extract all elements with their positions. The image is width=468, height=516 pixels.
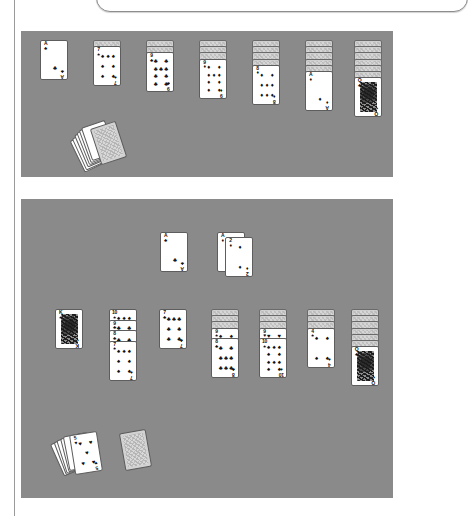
face-up-card[interactable]: 4♠4♠♠♠♠♠ [307,328,335,368]
card-pips: ♠♠♠♠♠♠♠♠♠♠ [266,343,282,373]
tableau-column-2[interactable]: 10♠10♠♠♠♠♠♠♠♠♠♠♠9♣9♣♣♣♣♣♣♣♣♣♣8♣8♣♣♣♣♣♣♣♣… [109,309,137,381]
face-up-card[interactable]: K♠K♠ [55,309,83,349]
tableau-column-7[interactable]: Q♣Q♣ [351,309,379,386]
waste-top-card[interactable]: 5♥5♥♥♥♥♥♥ [69,431,103,475]
court-card-art [360,82,377,112]
tableau-column-4[interactable]: 9♦9♦♦♦♦♦♦♦♦♦♦ [199,40,227,99]
court-card-art [61,314,78,344]
tableau-column-2[interactable]: 7♠7♠♠♠♠♠♠♠♠ [93,40,121,86]
face-up-card[interactable]: 8♦8♦♦♦♦♦♦♦♦♦ [252,65,280,105]
face-up-card[interactable]: 9♦9♦♦♦♦♦♦♦♦♦♦ [199,59,227,99]
card-pips: ♥♥♥♥♥ [77,437,97,469]
card-pips: ♦♦♦♦♦♦♦♦♦ [206,64,222,94]
tableau-column-3[interactable]: 7♣7♣♣♣♣♣♣♣♣ [159,309,187,349]
face-up-card[interactable]: 7♠7♠♠♠♠♠♠♠♠ [109,341,137,381]
card-pips: ♠♠♠♠♠♠♠ [116,346,132,376]
face-up-card[interactable]: 10♠10♠♠♠♠♠♠♠♠♠♠♠ [259,338,287,378]
face-up-card[interactable]: Q♣Q♣ [354,77,382,117]
card-pips: ♦♦ [232,242,248,272]
face-up-card[interactable]: 7♣7♣♣♣♣♣♣♣♣ [159,309,187,349]
foundation-card-clubs[interactable]: A♣A♣♣ [160,232,188,272]
tableau-column-5[interactable]: 9♥9♥♥♥♥♥♥♥♥♥♥10♠10♠♠♠♠♠♠♠♠♠♠♠ [259,309,287,378]
tableau-column-6[interactable]: A♦A♦♦ [305,40,333,111]
card-pips: ♣♣♣♣♣♣♣ [166,314,182,344]
page-left-rule [14,0,15,516]
card-pips: ♣♣♣♣♣♣♣♣♣ [153,57,169,87]
tableau-column-5[interactable]: 8♦8♦♦♦♦♦♦♦♦♦ [252,40,280,105]
face-up-card[interactable]: A♣A♣♣ [40,40,68,80]
card-pips: ♦ [312,76,328,106]
card-pips: ♦♦♦♦♦♦♦♦ [259,70,275,100]
card-pips: ♣ [167,237,183,267]
tableau-column-7[interactable]: Q♣Q♣ [354,40,382,117]
card-pips: ♣ [47,45,63,75]
card-pips: ♠♠♠♠ [314,333,330,363]
solitaire-board-bottom[interactable]: A♣A♣♣A♦A♦♦2♦2♦♦♦K♠K♠10♠10♠♠♠♠♠♠♠♠♠♠♠9♣9♣… [21,199,393,498]
tableau-column-6[interactable]: 4♠4♠♠♠♠♠ [307,309,335,368]
court-card-art [357,351,374,381]
page-top-panel-frame [96,0,468,12]
solitaire-board-top[interactable]: A♣A♣♣7♠7♠♠♠♠♠♠♠♠9♣9♣♣♣♣♣♣♣♣♣♣9♦9♦♦♦♦♦♦♦♦… [21,31,393,177]
face-up-card[interactable]: Q♣Q♣ [351,346,379,386]
foundation-card-diamonds[interactable]: 2♦2♦♦♦ [225,237,253,277]
tableau-column-4[interactable]: 9♠9♠♠♠♠♠♠♠♠♠♠8♣8♣♣♣♣♣♣♣♣♣ [211,309,239,378]
tableau-column-3[interactable]: 9♣9♣♣♣♣♣♣♣♣♣♣ [146,40,174,92]
stock-pile[interactable] [119,429,152,471]
face-up-card[interactable]: 8♣8♣♣♣♣♣♣♣♣♣ [211,338,239,378]
face-up-card[interactable]: A♦A♦♦ [305,71,333,111]
tableau-column-1[interactable]: A♣A♣♣ [40,40,68,80]
tableau-column-1[interactable]: K♠K♠ [55,309,83,349]
card-pips: ♠♠♠♠♠♠♠ [100,51,116,81]
card-pips: ♣♣♣♣♣♣♣♣ [218,343,234,373]
face-up-card[interactable]: 7♠7♠♠♠♠♠♠♠♠ [93,46,121,86]
face-up-card[interactable]: 9♣9♣♣♣♣♣♣♣♣♣♣ [146,52,174,92]
